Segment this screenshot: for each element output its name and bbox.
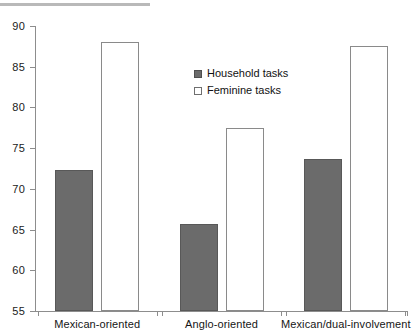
bar-household-tasks-mexican-dual-involvement	[304, 159, 342, 311]
x-tick-0-1	[157, 311, 158, 316]
y-tick-70: 70	[30, 189, 35, 190]
bar-household-tasks-anglo-oriented	[180, 224, 218, 311]
y-tick-65: 65	[30, 230, 35, 231]
y-tick-label-60: 60	[12, 264, 25, 276]
legend-item-household-tasks: Household tasks	[194, 68, 288, 79]
legend-swatch-outline-icon	[194, 87, 202, 95]
y-tick-label-75: 75	[12, 142, 25, 154]
legend-item-feminine-tasks: Feminine tasks	[194, 85, 288, 96]
y-tick-label-70: 70	[12, 183, 25, 195]
y-tick-90: 90	[30, 26, 35, 27]
bar-feminine-tasks-anglo-oriented	[226, 128, 264, 311]
bar-household-tasks-mexican-oriented	[55, 170, 93, 311]
x-tick-2-0	[286, 311, 287, 316]
x-tick-1-1	[281, 311, 282, 316]
y-tick-85: 85	[30, 67, 35, 68]
page-rule-decoration	[0, 3, 150, 6]
x-tick-0-0	[38, 311, 39, 316]
y-tick-75: 75	[30, 148, 35, 149]
category-label-mexican-oriented: Mexican-oriented	[54, 318, 140, 330]
y-axis-line	[35, 26, 36, 311]
y-tick-80: 80	[30, 107, 35, 108]
bar-chart-figure: 5560657075808590 Mexican-orientedAnglo-o…	[0, 0, 414, 331]
y-tick-label-55: 55	[12, 305, 25, 317]
category-label-anglo-oriented: Anglo-oriented	[185, 318, 258, 330]
y-tick-55: 55	[30, 311, 35, 312]
legend-label-household-tasks: Household tasks	[207, 68, 288, 79]
x-tick-1-0	[162, 311, 163, 316]
bar-feminine-tasks-mexican-oriented	[101, 42, 139, 311]
chart-legend: Household tasks Feminine tasks	[194, 68, 288, 102]
category-label-mexican-dual-involvement: Mexican/dual-involvement	[281, 318, 411, 330]
x-tick-end	[407, 311, 408, 316]
legend-swatch-filled-icon	[194, 70, 202, 78]
y-tick-label-65: 65	[12, 224, 25, 236]
y-tick-60: 60	[30, 270, 35, 271]
bar-feminine-tasks-mexican-dual-involvement	[350, 46, 388, 311]
y-tick-label-85: 85	[12, 61, 25, 73]
y-tick-label-80: 80	[12, 101, 25, 113]
x-axis-line	[35, 311, 408, 312]
y-tick-label-90: 90	[12, 20, 25, 32]
legend-label-feminine-tasks: Feminine tasks	[207, 85, 281, 96]
